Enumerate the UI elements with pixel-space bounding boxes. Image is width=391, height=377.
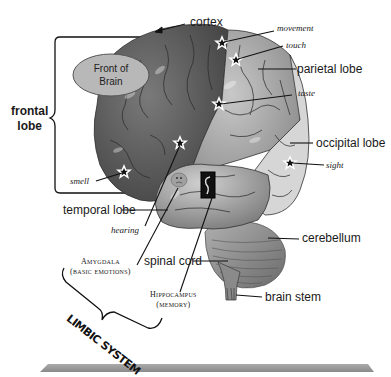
cerebellum-shape (205, 221, 285, 288)
label-cerebellum: cerebellum (302, 231, 361, 245)
label-amygdala: Amygdala (basic emotions) (70, 257, 131, 277)
label-occipital-lobe: occipital lobe (316, 136, 385, 150)
frontal-line1: frontal (11, 104, 48, 119)
frontal-line2: lobe (11, 119, 48, 134)
label-spinal-cord: spinal cord (144, 254, 202, 268)
label-smell: smell (70, 176, 89, 186)
hippocampus-line2: (memory) (150, 300, 197, 310)
label-hippocampus: Hippocampus (memory) (150, 290, 197, 310)
front-of-brain-line1: Front of (86, 62, 136, 75)
label-brain-stem: brain stem (265, 290, 321, 304)
base-platform (40, 364, 374, 372)
label-hearing: hearing (111, 225, 139, 235)
amygdala-line1: Amygdala (70, 257, 131, 267)
front-of-brain-line2: Brain (86, 75, 136, 88)
label-sight: sight (326, 160, 344, 170)
label-touch: touch (286, 40, 306, 50)
label-cortex: cortex (190, 15, 223, 29)
label-parietal-lobe: parietal lobe (297, 62, 362, 76)
amygdala-line2: (basic emotions) (70, 267, 131, 277)
label-temporal-lobe: temporal lobe (63, 203, 136, 217)
amygdala-marker (171, 173, 187, 187)
label-movement: movement (277, 23, 313, 33)
front-of-brain-label: Front of Brain (86, 62, 136, 88)
label-taste: taste (298, 88, 315, 98)
hippocampus-line1: Hippocampus (150, 290, 197, 300)
label-frontal-lobe: frontal lobe (11, 104, 48, 134)
hippocampus-marker (201, 172, 215, 198)
